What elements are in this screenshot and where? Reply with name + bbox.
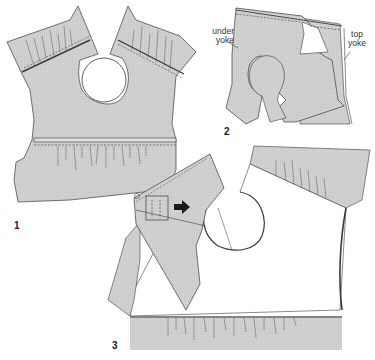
- step-1-number: 1: [14, 220, 20, 231]
- step-3-number: 3: [112, 340, 118, 351]
- step-2-number: 2: [224, 126, 230, 137]
- step-1-bodice: [7, 6, 196, 202]
- top-yoke-label: top yoke: [344, 30, 370, 48]
- diagram-canvas: [0, 0, 375, 360]
- under-yoke-label: under yoke: [204, 27, 234, 45]
- step-2-yokes: [226, 8, 352, 124]
- under-yoke-label-line2: yoke: [204, 36, 234, 45]
- top-yoke-label-line2: yoke: [344, 39, 370, 48]
